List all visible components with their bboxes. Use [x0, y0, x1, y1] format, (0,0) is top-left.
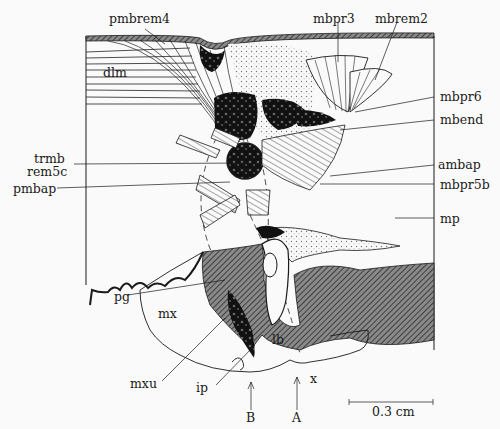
canal-bulb — [263, 253, 277, 277]
label-pg: pg — [114, 290, 130, 303]
diagram-drawing — [0, 0, 500, 429]
label-B: B — [246, 411, 255, 424]
wavy-margin — [90, 252, 203, 305]
label-ambap: ambap — [438, 158, 481, 171]
label-mp: mp — [440, 212, 460, 225]
mbrem2-muscle — [350, 68, 392, 112]
label-dlm: dlm — [103, 66, 127, 79]
label-mbrem2: mbrem2 — [375, 12, 428, 25]
label-mx: mx — [158, 307, 177, 320]
label-mbend: mbend — [440, 113, 483, 126]
hatched-mass — [202, 244, 434, 350]
label-mbpr5b: mbpr5b — [440, 178, 490, 191]
label-mxu: mxu — [130, 377, 157, 390]
label-pmbrem4: pmbrem4 — [109, 12, 170, 25]
figure-canvas: pmbrem4 mbpr3 mbrem2 dlm mbpr6 mbend trm… — [0, 0, 500, 429]
label-ip: ip — [196, 381, 208, 394]
striped-muscle-bundles — [176, 125, 345, 228]
scale-bar-label: 0.3 cm — [372, 405, 415, 418]
label-mbpr6: mbpr6 — [440, 90, 482, 103]
label-pmbap: pmbap — [13, 182, 56, 195]
label-A: A — [292, 411, 301, 424]
label-rem5c: rem5c — [27, 165, 67, 178]
label-lb: lb — [272, 333, 284, 346]
label-x: x — [310, 372, 317, 385]
label-mbpr3: mbpr3 — [313, 12, 355, 25]
mandible-condyle — [227, 143, 263, 179]
